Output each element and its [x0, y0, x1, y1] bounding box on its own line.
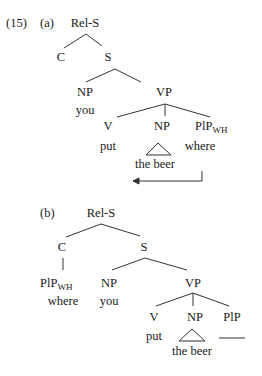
branch-b-rel-s-c — [66, 224, 101, 237]
wh-subscript: WH — [212, 125, 227, 135]
branch-s-np — [86, 69, 115, 82]
plp-label: PlP — [40, 276, 57, 290]
branch-rel-s-s — [86, 34, 102, 46]
example-number: (15) — [6, 17, 27, 30]
word-b-the-beer: the beer — [172, 345, 212, 358]
node-b-plp: PlP — [223, 311, 240, 324]
node-a-c: C — [57, 51, 65, 64]
node-a-vp: VP — [156, 86, 172, 99]
wh-subscript: WH — [57, 282, 72, 292]
node-b-vp: VP — [185, 277, 201, 290]
word-b-put: put — [146, 330, 162, 343]
word-a-the-beer: the beer — [135, 158, 175, 171]
triangle-np-a — [146, 143, 171, 155]
branch-b-s-np — [112, 258, 145, 270]
branch-b-rel-s-s — [101, 224, 140, 236]
node-b-np-subject: NP — [101, 277, 117, 290]
branch-vp-v — [117, 104, 165, 117]
branch-b-vp-plp — [193, 293, 229, 306]
triangle-np-b — [179, 329, 205, 341]
branch-rel-s-c — [64, 34, 86, 48]
node-b-rel-s: Rel-S — [87, 207, 115, 220]
node-a-np-subject: NP — [77, 86, 93, 99]
node-a-rel-s: Rel-S — [71, 17, 99, 30]
branch-s-vp — [115, 69, 141, 82]
node-a-v: V — [103, 120, 112, 133]
node-b-v: V — [149, 311, 158, 324]
word-a-put: put — [100, 140, 116, 153]
node-b-s: S — [141, 241, 148, 254]
tree-a-label: (a) — [40, 17, 54, 30]
arrow-head-icon — [133, 178, 139, 184]
branch-b-s-vp — [145, 258, 187, 270]
branch-vp-plp — [165, 104, 210, 117]
word-b-you: you — [100, 295, 119, 308]
node-b-plp-wh: PlPWH — [40, 277, 72, 290]
tree-b-label: (b) — [40, 207, 55, 220]
word-a-where: where — [185, 140, 216, 153]
node-a-np-object: NP — [154, 120, 170, 133]
node-b-c: C — [58, 241, 66, 254]
movement-arrow-line — [133, 171, 202, 181]
word-a-you: you — [76, 104, 95, 117]
node-a-s: S — [105, 51, 112, 64]
node-a-plp-wh: PlPWH — [195, 120, 227, 133]
branch-b-vp-v — [156, 293, 193, 306]
word-b-where: where — [48, 295, 79, 308]
plp-label: PlP — [195, 119, 212, 133]
node-b-np-object: NP — [187, 311, 203, 324]
